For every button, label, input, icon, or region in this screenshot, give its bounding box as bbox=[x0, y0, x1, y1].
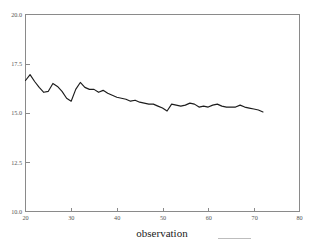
x-tick-label: 50 bbox=[160, 214, 166, 221]
plot-area-background bbox=[25, 14, 300, 212]
x-tick-label: 60 bbox=[206, 214, 212, 221]
x-tick-label: 30 bbox=[68, 214, 74, 221]
y-axis-tick-labels: 20.0 17.5 15.0 12.5 10.0 bbox=[11, 11, 22, 215]
y-tick-label: 15.0 bbox=[11, 109, 22, 116]
line-chart-svg: 20.0 17.5 15.0 12.5 10.0 20 30 40 50 60 … bbox=[0, 0, 310, 244]
y-tick-label: 10.0 bbox=[11, 208, 22, 215]
y-tick-label: 20.0 bbox=[11, 11, 22, 18]
chart-figure: 20.0 17.5 15.0 12.5 10.0 20 30 40 50 60 … bbox=[0, 0, 310, 244]
x-tick-label: 20 bbox=[22, 214, 28, 221]
x-axis-title: observation bbox=[136, 227, 188, 239]
x-tick-label: 70 bbox=[252, 214, 258, 221]
y-tick-label: 12.5 bbox=[11, 159, 22, 166]
x-tick-label: 40 bbox=[114, 214, 120, 221]
x-axis-tick-labels: 20 30 40 50 60 70 80 bbox=[22, 214, 302, 221]
y-tick-label: 17.5 bbox=[11, 60, 22, 67]
x-tick-label: 80 bbox=[296, 214, 302, 221]
